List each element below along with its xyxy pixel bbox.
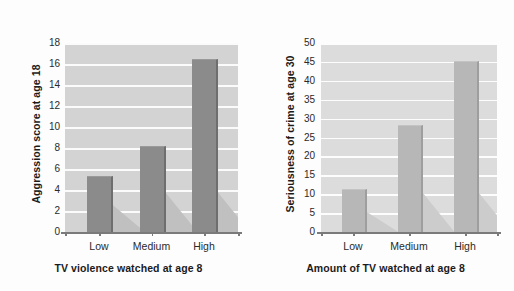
plot-area-right	[321, 43, 497, 232]
y-axis-tick-labels-left: 024681012141618	[34, 0, 60, 291]
x-axis-tick-label: Medium	[390, 240, 427, 252]
bar-shadow	[477, 190, 498, 232]
y-axis-tick-label: 0	[54, 227, 60, 237]
chart-panel-right: Seriousness of crime at age 30 051015202…	[257, 0, 514, 291]
bar-low[interactable]	[87, 176, 113, 232]
x-axis-tick-mark	[497, 232, 499, 236]
x-axis-tick-mark	[204, 232, 206, 236]
y-axis-tick-label: 45	[304, 57, 315, 67]
gridline	[321, 43, 497, 45]
x-axis-tick-mark	[99, 232, 101, 236]
plot-area-left	[65, 43, 238, 232]
x-axis-tick-label: Low	[89, 240, 108, 252]
y-axis-tick-label: 14	[49, 80, 60, 90]
y-axis-tick-label: 35	[304, 95, 315, 105]
bar-medium[interactable]	[398, 125, 423, 232]
x-axis-title-left: TV violence watched at age 8	[0, 262, 257, 274]
y-axis-tick-label: 50	[304, 38, 315, 48]
x-axis-tick-mark	[321, 232, 323, 236]
x-axis-tick-mark	[409, 232, 411, 236]
y-axis-tick-label: 2	[54, 206, 60, 216]
y-axis-tick-label: 10	[304, 189, 315, 199]
x-axis-tick-mark	[465, 232, 467, 236]
bar-high[interactable]	[192, 59, 218, 232]
x-axis-tick-mark	[353, 232, 355, 236]
y-axis-tick-label: 4	[54, 185, 60, 195]
x-axis-tick-label: Low	[343, 240, 362, 252]
two-panel-bar-chart-figure: Aggression score at age 18 0246810121416…	[0, 0, 514, 291]
x-axis-tick-label: High	[193, 240, 215, 252]
bar-shadow	[421, 190, 455, 232]
y-axis-tick-label: 18	[49, 38, 60, 48]
y-axis-tick-label: 20	[304, 151, 315, 161]
x-axis-tick-label: Medium	[133, 240, 170, 252]
bar-low[interactable]	[342, 189, 367, 232]
y-axis-tick-label: 25	[304, 133, 315, 143]
bar-medium[interactable]	[140, 146, 166, 232]
y-axis-tick-label: 16	[49, 59, 60, 69]
y-axis-tick-label: 6	[54, 164, 60, 174]
x-axis-tick-mark	[65, 232, 67, 236]
y-axis-tick-label: 15	[304, 170, 315, 180]
y-axis-tick-label: 30	[304, 114, 315, 124]
x-axis-tick-label: High	[454, 240, 476, 252]
y-axis-tick-label: 40	[304, 76, 315, 86]
y-axis-tick-label: 5	[309, 208, 315, 218]
y-axis-tick-label: 10	[49, 122, 60, 132]
gridline	[65, 43, 238, 45]
x-axis-title-right: Amount of TV watched at age 8	[257, 262, 514, 274]
bar-high[interactable]	[454, 61, 479, 232]
y-axis-tick-labels-right: 05101520253035404550	[289, 0, 315, 291]
y-axis-tick-label: 8	[54, 143, 60, 153]
y-axis-tick-label: 0	[309, 227, 315, 237]
y-axis-tick-label: 12	[49, 101, 60, 111]
x-axis-tick-mark	[152, 232, 154, 236]
x-axis-tick-mark	[238, 232, 240, 236]
chart-panel-left: Aggression score at age 18 0246810121416…	[0, 0, 257, 291]
